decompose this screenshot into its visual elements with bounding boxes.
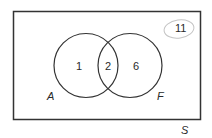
- f-only-count: 6: [133, 60, 139, 72]
- outside-count: 11: [175, 22, 186, 34]
- intersection-count: 2: [105, 60, 111, 72]
- set-a-label: A: [46, 90, 54, 102]
- set-f-label: F: [157, 90, 165, 102]
- a-only-count: 1: [76, 60, 82, 72]
- universal-set-label: S: [181, 124, 189, 136]
- venn-diagram: 1 2 6 11 A F S: [0, 0, 212, 138]
